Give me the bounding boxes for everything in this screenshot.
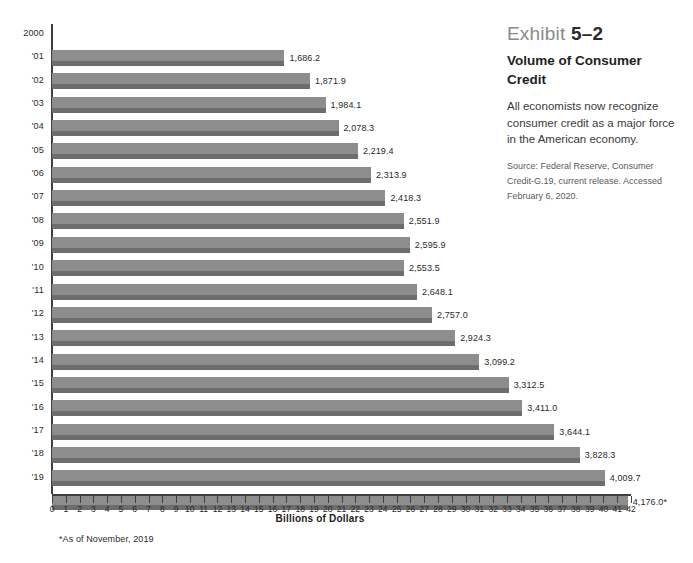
- bar-value-label: 3,828.3: [585, 447, 616, 463]
- x-axis-tick-mark: [300, 496, 301, 503]
- x-axis-tick-label: 39: [585, 504, 594, 514]
- bar-row[interactable]: 3,411.0: [52, 398, 631, 421]
- x-axis-tick-mark: [369, 496, 370, 503]
- x-axis-tick-mark: [93, 496, 94, 503]
- y-axis-tick-label: '08: [0, 215, 44, 226]
- bar[interactable]: [52, 284, 417, 300]
- bar-row[interactable]: 2,553.5: [52, 258, 631, 281]
- bar-row[interactable]: 4,009.7: [52, 468, 631, 491]
- bar[interactable]: [52, 120, 339, 136]
- bar-row[interactable]: 2,648.1: [52, 282, 631, 305]
- page-title: Volume of Consumer Credit: [507, 51, 677, 89]
- bar[interactable]: [52, 190, 385, 206]
- bar[interactable]: [52, 447, 580, 463]
- x-axis-tick-mark: [204, 496, 205, 503]
- x-axis-tick-label: 34: [516, 504, 525, 514]
- bar[interactable]: [52, 424, 554, 440]
- y-axis-tick-label: '11: [0, 285, 44, 296]
- bar-value-label: 2,418.3: [390, 190, 421, 206]
- x-axis-tick-mark: [631, 496, 632, 503]
- bar-value-label: 3,411.0: [527, 400, 557, 416]
- x-axis-tick-mark: [535, 496, 536, 503]
- bar-value-label: 3,312.5: [514, 377, 545, 393]
- bar[interactable]: [52, 143, 358, 159]
- y-axis-tick-label: '17: [0, 425, 44, 436]
- bar-value-label: 2,553.5: [409, 260, 440, 276]
- bar[interactable]: [52, 260, 404, 276]
- bar-value-label: 1,686.2: [289, 50, 320, 66]
- bar-value-label: 1,984.1: [331, 97, 362, 113]
- bar-row[interactable]: 2,551.9: [52, 211, 631, 234]
- bar-value-label: 2,313.9: [376, 167, 407, 183]
- chart-panel: 1,686.21,871.91,984.12,078.32,219.42,313…: [0, 0, 470, 563]
- y-axis-tick-label: '13: [0, 332, 44, 343]
- bar[interactable]: [52, 237, 410, 253]
- x-axis-tick-mark: [286, 496, 287, 503]
- x-axis-tick-label: 6: [132, 504, 137, 514]
- y-axis-tick-label: '19: [0, 472, 44, 483]
- x-axis-tick-mark: [135, 496, 136, 503]
- x-axis-tick-label: 1: [63, 504, 68, 514]
- bar[interactable]: [52, 307, 432, 323]
- chart-footnote: *As of November, 2019: [59, 534, 154, 544]
- bar[interactable]: [52, 97, 326, 113]
- y-axis-tick-label: '18: [0, 448, 44, 459]
- bar-value-label: 1,871.9: [315, 73, 346, 89]
- x-axis-tick-mark: [328, 496, 329, 503]
- exhibit-number-label: 5–2: [571, 23, 603, 44]
- bar-row[interactable]: 2,595.9: [52, 235, 631, 258]
- x-axis-tick-mark: [521, 496, 522, 503]
- bar-row[interactable]: 2,924.3: [52, 328, 631, 351]
- bar[interactable]: [52, 470, 605, 486]
- bar[interactable]: [52, 400, 522, 416]
- bar-value-label: 2,551.9: [409, 213, 440, 229]
- x-axis-tick-label: 33: [502, 504, 511, 514]
- bar-row[interactable]: 3,644.1: [52, 422, 631, 445]
- y-axis-tick-label: '14: [0, 355, 44, 366]
- x-axis-tick-mark: [149, 496, 150, 503]
- x-axis-tick-mark: [259, 496, 260, 503]
- x-axis-tick-label: 3: [91, 504, 96, 514]
- x-axis-tick-label: 35: [530, 504, 539, 514]
- bar[interactable]: [52, 330, 455, 346]
- y-axis-tick-label: '06: [0, 168, 44, 179]
- x-axis-tick-label: 42: [626, 504, 635, 514]
- y-axis-tick-label: '03: [0, 98, 44, 109]
- x-axis-tick-mark: [507, 496, 508, 503]
- x-axis-tick-mark: [66, 496, 67, 503]
- bar[interactable]: [52, 73, 310, 89]
- y-axis-tick-label: '10: [0, 262, 44, 273]
- bar-value-label: 2,078.3: [344, 120, 375, 136]
- x-axis-tick-mark: [590, 496, 591, 503]
- x-axis-tick-mark: [52, 496, 53, 503]
- y-axis-tick-label: '07: [0, 191, 44, 202]
- x-axis-tick-label: 0: [50, 504, 55, 514]
- x-axis-tick-mark: [176, 496, 177, 503]
- bar[interactable]: [52, 50, 284, 66]
- info-source: Source: Federal Reserve, Consumer Credit…: [507, 159, 677, 204]
- x-axis-tick-mark: [245, 496, 246, 503]
- y-axis-tick-label: '02: [0, 75, 44, 86]
- info-description: All economists now recognize consumer cr…: [507, 98, 677, 148]
- bar[interactable]: [52, 377, 509, 393]
- y-axis-tick-label: '04: [0, 121, 44, 132]
- bar-value-label: 3,644.1: [559, 424, 590, 440]
- bar-row[interactable]: 2,757.0: [52, 305, 631, 328]
- bar-value-label: 2,219.4: [363, 143, 394, 159]
- x-axis-tick-mark: [466, 496, 467, 503]
- bar[interactable]: [52, 167, 371, 183]
- bar-row[interactable]: 3,312.5: [52, 375, 631, 398]
- x-axis-tick-mark: [355, 496, 356, 503]
- bar[interactable]: [52, 213, 404, 229]
- x-axis-tick-mark: [438, 496, 439, 503]
- x-axis-title: Billions of Dollars: [150, 513, 490, 524]
- exhibit-prefix-label: Exhibit: [507, 23, 565, 44]
- y-axis-tick-label: '09: [0, 238, 44, 249]
- bar-row[interactable]: 3,099.2: [52, 352, 631, 375]
- bar-row[interactable]: 3,828.3: [52, 445, 631, 468]
- bar-value-label: 2,757.0: [437, 307, 468, 323]
- bar-value-label: 4,009.7: [610, 470, 641, 486]
- x-axis-tick-mark: [562, 496, 563, 503]
- bar[interactable]: [52, 354, 479, 370]
- exhibit-heading: Exhibit 5–2: [507, 22, 677, 46]
